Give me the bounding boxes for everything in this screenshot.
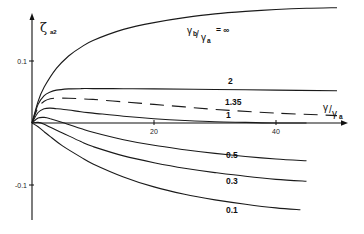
infinity-label-part: γ <box>187 25 192 36</box>
curve-label-0.1: 0.1 <box>226 205 238 215</box>
curve-label-0.5: 0.5 <box>226 150 238 160</box>
infinity-label-part: / <box>196 29 199 40</box>
infinity-label-part: a <box>207 37 211 44</box>
curves <box>32 8 337 210</box>
x-axis-arrow-icon <box>341 120 348 125</box>
svg-text:γ: γ <box>332 108 337 119</box>
curve-labels: 21.3510.50.30.1γb/γa= ∞ <box>187 25 242 215</box>
curve-1.35 <box>32 98 337 123</box>
curve-0.1 <box>32 123 300 210</box>
y-axis-label-subscript: a2 <box>50 29 57 35</box>
y-axis-arrow-icon <box>30 13 35 20</box>
curve-0.3 <box>32 122 307 181</box>
chart: ζ a2 γ / γ a 20400.1-0.1 21.3510.50.30.1… <box>0 0 364 234</box>
curve-∞ <box>32 8 337 123</box>
infinity-label-part: = ∞ <box>216 25 229 35</box>
svg-text:a: a <box>339 113 343 120</box>
curve-label-1.35: 1.35 <box>225 97 242 107</box>
curve-label-infinity: γb/γa= ∞ <box>187 25 229 44</box>
y-tick-label: 0.1 <box>17 58 27 65</box>
curve-label-1: 1 <box>226 110 231 120</box>
curve-label-0.3: 0.3 <box>226 176 238 186</box>
curve-1 <box>32 108 307 123</box>
curve-label-2: 2 <box>228 76 233 86</box>
curve-0.5 <box>32 117 307 160</box>
y-axis-label: ζ <box>40 20 47 35</box>
x-axis-label: γ / γ a <box>323 102 343 120</box>
x-tick-label: 20 <box>150 128 158 135</box>
y-tick-label: -0.1 <box>15 182 27 189</box>
curve-2 <box>32 89 337 123</box>
infinity-label-part: γ <box>201 32 206 43</box>
x-tick-label: 40 <box>272 128 280 135</box>
svg-text:γ: γ <box>323 102 328 113</box>
